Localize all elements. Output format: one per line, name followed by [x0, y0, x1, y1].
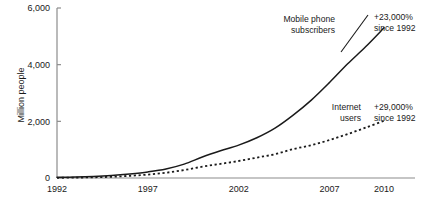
y-tick-label-0: 0	[45, 173, 50, 183]
internet-annotation-line2: since 1992	[374, 113, 416, 123]
internet-annotation-line1: +29,000%	[374, 102, 413, 112]
internet-label-line2: users	[340, 113, 361, 123]
mobile-annotation-line1: +23,000%	[374, 12, 413, 22]
x-tick-label-2010: 2010	[374, 184, 394, 194]
x-tick-label-1997: 1997	[138, 184, 158, 194]
y-tick-label-6,000: 6,000	[27, 3, 50, 13]
y-tick-label-4,000: 4,000	[27, 60, 50, 70]
series-label-mobile-phone-subscribers: Mobile phone subscribers	[283, 14, 368, 52]
series-line-internet-users	[57, 121, 384, 178]
internet-label-line1: Internet	[332, 102, 362, 112]
y-tick-label-2,000: 2,000	[27, 117, 50, 127]
series-label-internet-users: Internet users	[332, 102, 362, 123]
annotation-mobile-growth: +23,000% since 1992	[374, 12, 416, 33]
x-tick-label-2002: 2002	[229, 184, 249, 194]
line-chart: 02,0004,0006,000 Million people 19921997…	[0, 0, 425, 198]
mobile-annotation-line2: since 1992	[374, 23, 416, 33]
mobile-leader-line	[341, 15, 368, 52]
x-tick-label-2007: 2007	[319, 184, 339, 194]
x-axis: 19921997200220072010	[47, 178, 415, 194]
y-axis: 02,0004,0006,000 Million people	[16, 3, 61, 183]
x-axis-tick-labels: 19921997200220072010	[47, 184, 394, 194]
chart-container: 02,0004,0006,000 Million people 19921997…	[0, 0, 425, 198]
y-axis-label: Million people	[16, 67, 26, 122]
annotation-internet-growth: +29,000% since 1992	[374, 102, 416, 123]
x-tick-label-1992: 1992	[47, 184, 67, 194]
mobile-label-line1: Mobile phone	[283, 14, 335, 24]
y-axis-tick-labels: 02,0004,0006,000	[27, 3, 50, 183]
mobile-label-line2: subscribers	[291, 25, 335, 35]
